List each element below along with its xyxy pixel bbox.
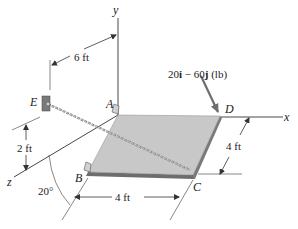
angle-20-label: 20° — [38, 186, 53, 197]
dim-4ft-width-label: 4 ft — [115, 192, 130, 203]
x-axis-label: x — [284, 111, 289, 123]
dim-6ft-line2 — [52, 56, 70, 65]
point-d-label: D — [225, 103, 234, 115]
point-e-label: E — [30, 96, 37, 108]
hinge-b — [84, 162, 91, 172]
dim-4ft-depth-label: 4 ft — [226, 141, 241, 152]
dim-6ft-label: 6 ft — [74, 52, 89, 63]
point-a-label: A — [106, 98, 113, 110]
bracket-e-pin — [46, 102, 50, 106]
dim-6ft-line — [84, 35, 116, 49]
force-arrow — [201, 76, 218, 112]
force-label: 20i − 60j (lb) — [168, 69, 227, 80]
dim-4ft-ext-c — [170, 180, 193, 220]
dim-4ft-d-up — [240, 118, 249, 135]
dim-4ft-d-down — [220, 157, 229, 174]
dim-2ft-label: 2 ft — [17, 143, 32, 154]
point-b-label: B — [75, 172, 82, 184]
y-axis-label: y — [113, 4, 118, 16]
angle-arc-20 — [49, 155, 70, 205]
z-axis-label: z — [7, 176, 12, 188]
point-c-label: C — [193, 181, 201, 193]
